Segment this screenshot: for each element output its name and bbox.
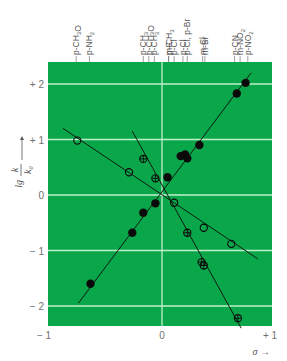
crossed-circle-marker — [152, 175, 159, 182]
y-tick-label: 0 — [38, 190, 44, 201]
x-axis-label: σ → — [253, 346, 270, 357]
filled-circle-marker — [195, 141, 203, 149]
x-tick-label: + 1 — [263, 330, 278, 341]
filled-circle-marker — [86, 280, 94, 288]
x-axis-title: σ → — [253, 346, 270, 357]
filled-circle-marker — [163, 173, 171, 181]
x-tick-label: 0 — [159, 330, 165, 341]
filled-circle-marker — [183, 154, 191, 162]
svg-text:lg: lg — [13, 180, 24, 188]
substituent-label: p-Cl, p-Br — [182, 18, 192, 55]
crossed-circle-marker — [140, 155, 147, 162]
y-tick-label: − 1 — [30, 246, 45, 257]
crossed-circle-marker — [234, 315, 241, 322]
filled-circle-marker — [233, 89, 241, 97]
x-axis-ticks: − 10+ 1 — [37, 330, 278, 341]
y-tick-label: + 1 — [30, 135, 45, 146]
crossed-circle-marker — [200, 262, 207, 269]
y-tick-label: − 2 — [30, 301, 45, 312]
substituent-labels: p-CH3Op-NH2p-CH3p-CH3Op-CH3m-CH3p-Fp-Clp… — [71, 18, 254, 62]
crossed-circle-marker — [184, 229, 191, 236]
substituent-label: p-CH3O — [71, 25, 83, 55]
filled-circle-marker — [128, 229, 136, 237]
y-tick-label: + 2 — [30, 79, 45, 90]
substituent-label: p-NH2 — [84, 31, 95, 55]
y-axis-ticks: + 2+ 10− 1− 2 — [30, 79, 45, 312]
filled-circle-marker — [139, 209, 147, 217]
svg-text:k₀: k₀ — [22, 166, 33, 174]
filled-circle-marker — [151, 199, 159, 207]
x-tick-label: − 1 — [37, 330, 52, 341]
filled-circle-marker — [241, 79, 249, 87]
substituent-label: m-Br — [200, 36, 210, 55]
svg-text:k: k — [9, 167, 20, 172]
hammett-plot: p-CH3Op-NH2p-CH3p-CH3Op-CH3m-CH3p-Fp-Clp… — [0, 0, 287, 361]
